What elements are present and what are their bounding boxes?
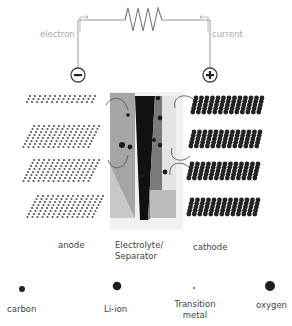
anode-layers xyxy=(22,95,104,218)
electrolyte-label-line2: Separator xyxy=(115,251,163,262)
current-arrow-icon xyxy=(200,15,208,32)
legend-oxygen-label: oxygen xyxy=(256,300,287,311)
positive-terminal-icon xyxy=(203,68,217,82)
transition-metal-legend-icon xyxy=(193,287,195,289)
anode-layer xyxy=(22,159,100,182)
anode-layer xyxy=(22,125,100,148)
anode-label: anode xyxy=(58,240,84,251)
legend-li-ion-label: Li-ion xyxy=(104,304,127,315)
anode-layer xyxy=(26,195,104,218)
battery-diagram xyxy=(0,0,292,326)
cathode-label: cathode xyxy=(193,242,227,253)
cathode-layer xyxy=(190,96,264,115)
negative-terminal-icon xyxy=(71,68,85,82)
legend-carbon-label: carbon xyxy=(7,304,36,315)
li-ion-legend-icon xyxy=(113,282,122,291)
electron-arrow-icon xyxy=(80,15,88,32)
resistor-icon xyxy=(125,8,162,31)
anode-layer xyxy=(26,95,96,103)
electron-label: electron xyxy=(40,29,75,40)
cathode-layers xyxy=(186,96,264,217)
legend-transition-line2: metal xyxy=(172,310,218,321)
cathode-layer xyxy=(186,162,260,181)
electrolyte-label-line1: Electrolyte/ xyxy=(115,240,163,251)
legend-transition-metal-label: Transition metal xyxy=(172,299,218,321)
current-label: current xyxy=(212,29,243,40)
electrolyte-label: Electrolyte/ Separator xyxy=(115,240,163,262)
legend-transition-line1: Transition xyxy=(172,299,218,310)
cathode-layer xyxy=(188,130,262,149)
cathode-layer xyxy=(186,198,260,217)
oxygen-legend-icon xyxy=(265,281,275,291)
electrolyte-separator xyxy=(110,92,183,230)
carbon-legend-icon xyxy=(19,286,25,292)
